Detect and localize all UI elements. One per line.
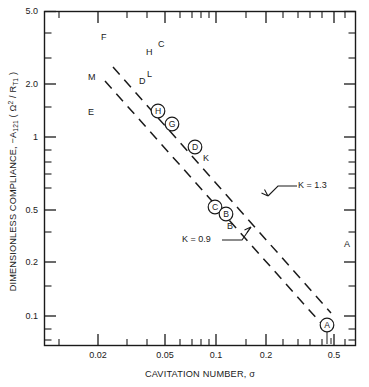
- marker-circles: [151, 104, 334, 332]
- point-label-C-upper: C: [158, 40, 165, 49]
- point-label-K: K: [203, 154, 209, 163]
- marker-A-stem: [327, 332, 331, 344]
- y-axis-title: DIMENSIONLESS COMPLIANCE, −A121 ( Ω2 / R…: [7, 32, 18, 332]
- plot-canvas: H G D C B A: [0, 0, 369, 387]
- y-tick-label-5: 5.0: [5, 7, 38, 16]
- annotation-k-0-9: K = 0.9: [182, 235, 211, 244]
- x-axis-minor-ticks: [59, 339, 345, 346]
- y-axis-right-major-ticks: [344, 12, 356, 317]
- x-axis-top-major-ticks: [98, 12, 334, 24]
- x-tick-label-0-05: 0.05: [145, 351, 185, 360]
- y-axis-title-sup: 2: [7, 101, 14, 105]
- point-label-D-upper: D: [139, 77, 146, 86]
- x-tick-label-0-2: 0.2: [246, 351, 286, 360]
- annotation-k-1-3: K = 1.3: [298, 181, 327, 190]
- x-tick-label-0-1: 0.1: [196, 351, 236, 360]
- y-axis-right-minor-ticks: [349, 33, 356, 340]
- trend-line-k13: [113, 67, 331, 313]
- y-axis-title-sub1: 121: [12, 120, 19, 131]
- svg-text:G: G: [169, 119, 176, 129]
- point-label-H-upper: H: [146, 48, 153, 57]
- y-axis-title-main: DIMENSIONLESS COMPLIANCE, −A: [8, 132, 18, 292]
- x-axis-title: CAVITATION NUMBER, σ: [44, 369, 356, 379]
- cavitation-compliance-chart: H G D C B A 5.0 2.0 1 0.5 0.2 0.1 0.02 0…: [0, 0, 369, 387]
- plot-frame: [45, 12, 356, 346]
- x-axis-top-minor-ticks: [59, 12, 345, 19]
- svg-text:B: B: [223, 209, 229, 219]
- y-axis-title-open: ( Ω: [8, 105, 18, 121]
- point-label-F: F: [101, 33, 107, 42]
- marker-circle-letters: H G D C B A: [155, 106, 330, 330]
- svg-text:C: C: [212, 202, 218, 212]
- y-axis-minor-ticks: [45, 33, 52, 340]
- y-axis-title-sub2: T1: [12, 78, 19, 86]
- leader-line-k13: [262, 186, 298, 196]
- point-label-E: E: [88, 108, 94, 117]
- svg-text:A: A: [324, 320, 330, 330]
- svg-text:H: H: [155, 106, 161, 116]
- x-tick-label-0-02: 0.02: [78, 351, 118, 360]
- point-label-B-lower: B: [227, 222, 233, 231]
- svg-text:D: D: [192, 142, 198, 152]
- y-axis-title-mid: / R: [8, 86, 18, 101]
- point-label-A-right: A: [344, 240, 350, 249]
- point-label-L: L: [147, 70, 152, 79]
- y-axis-major-ticks: [45, 12, 57, 317]
- x-tick-label-0-5: 0.5: [314, 351, 354, 360]
- point-label-M: M: [88, 73, 96, 82]
- y-axis-title-close: ): [8, 72, 18, 78]
- x-axis-major-ticks: [98, 334, 334, 346]
